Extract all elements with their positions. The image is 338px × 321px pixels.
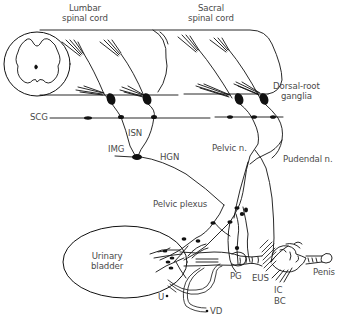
pudendal-n-label: Pudendal n. <box>283 154 333 164</box>
urinary-bladder-label: Urinary bladder <box>91 251 123 271</box>
pelvic-n-label: Pelvic n. <box>212 143 247 153</box>
isn-label: ISN <box>128 128 142 138</box>
sacral-cord-label-line2: spinal cord <box>188 13 234 23</box>
sympathetic-chain <box>50 115 283 120</box>
u-label: U <box>158 292 164 302</box>
pg-label: PG <box>230 271 242 281</box>
bladder-label-line1: Urinary <box>91 251 123 261</box>
lumbar-cord-label: Lumbar spinal cord <box>62 3 108 23</box>
sacral-cord-label: Sacral spinal cord <box>188 3 234 23</box>
vd-label: VD <box>210 306 222 316</box>
sacral-cord-label-line1: Sacral <box>188 3 234 13</box>
bladder-label-line2: bladder <box>91 261 123 271</box>
ic-label: IC <box>274 285 282 295</box>
drg-label-line1: Dorsal-root <box>273 81 320 91</box>
urethra-penis <box>166 240 332 312</box>
eus-label: EUS <box>252 273 269 283</box>
innervation-diagram: Lumbar spinal cord Sacral spinal cord Do… <box>0 0 338 321</box>
hgn-label: HGN <box>160 152 179 162</box>
bc-label: BC <box>274 296 286 306</box>
lumbar-roots <box>62 40 144 99</box>
pelvic-plexus-label: Pelvic plexus <box>153 199 207 209</box>
lumbar-cord-label-line2: spinal cord <box>62 13 108 23</box>
scg-label: SCG <box>30 112 48 122</box>
sacral-outflow <box>234 104 283 262</box>
drg-label-line2: ganglia <box>273 91 320 101</box>
dorsal-root-ganglia-label: Dorsal-root ganglia <box>273 81 320 101</box>
spinal-cord-cylinder <box>4 30 282 96</box>
img-label: IMG <box>108 144 124 154</box>
penis-label: Penis <box>313 267 335 277</box>
lumbar-cord-label-line1: Lumbar <box>62 3 108 13</box>
sacral-roots <box>178 35 260 98</box>
